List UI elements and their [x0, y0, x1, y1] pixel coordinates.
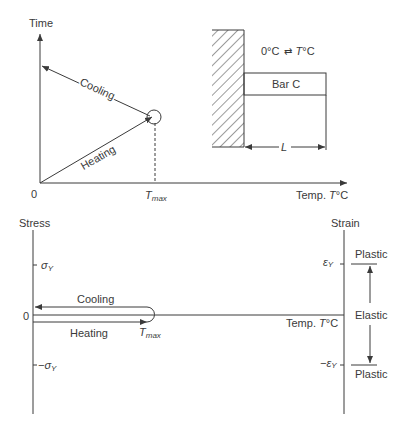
length-label: L — [281, 141, 287, 153]
bar-schematic: 0°C ⇄ T°C Bar C L — [212, 30, 326, 153]
plastic-top-label: Plastic — [355, 248, 388, 260]
neg-eps-y-label: −εY — [320, 357, 337, 370]
heating-stress-label: Heating — [70, 327, 108, 339]
stress-axis-label: Stress — [19, 217, 51, 229]
fixed-wall — [212, 30, 244, 147]
neg-sigma-y-label: −σY — [38, 359, 57, 373]
tmax-label: Tmax — [145, 189, 168, 203]
cooling-stress-label: Cooling — [77, 293, 114, 305]
strain-axis-label: Strain — [331, 217, 360, 229]
heating-label: Heating — [78, 143, 117, 172]
bar-c-label: Bar C — [272, 78, 300, 90]
tmax-stress-label: Tmax — [139, 326, 162, 340]
temperature-range-label: 0°C ⇄ T°C — [261, 45, 315, 57]
tmax-point-circle — [147, 110, 161, 124]
cooling-label: Cooling — [78, 75, 117, 102]
temperature-axis-label: Temp. T°C — [296, 189, 348, 201]
heating-arrow — [40, 117, 152, 183]
stress-strain-plot: Stress σY −σY 0 Temp. T°C Cooling Heatin… — [19, 217, 388, 414]
eps-y-label: εY — [323, 256, 334, 269]
origin-label: 0 — [31, 188, 37, 200]
time-axis-label: Time — [29, 17, 53, 29]
elastic-label: Elastic — [355, 309, 388, 321]
stress-origin-label: 0 — [23, 310, 29, 322]
thermal-cycle-diagram: Time 0 Temp. T°C Heating Cooling Tmax 0°… — [0, 0, 409, 428]
temperature-axis-bottom-label: Temp. T°C — [286, 317, 338, 329]
sigma-y-label: σY — [41, 259, 54, 273]
plastic-bottom-label: Plastic — [355, 368, 388, 380]
